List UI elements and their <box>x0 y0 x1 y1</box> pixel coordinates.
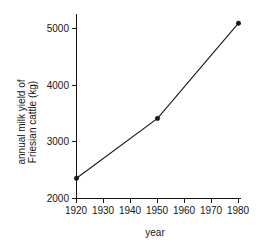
y-tick-label-5000: 5000 <box>47 23 70 34</box>
y-axis-title-line-1: annual milk yield of <box>16 79 27 164</box>
y-tick-label-2000: 2000 <box>47 193 70 204</box>
chart-figure: 5000 4000 3000 2000 1920 1930 1940 1950 … <box>0 0 261 248</box>
x-tick-label-1930: 1930 <box>92 205 115 216</box>
y-tick-label-4000: 4000 <box>47 80 70 91</box>
data-point-1920 <box>74 176 78 180</box>
series-line-milk-yield <box>77 23 239 178</box>
y-tick-label-3000: 3000 <box>47 136 70 147</box>
x-axis-ticks <box>77 199 239 204</box>
data-point-1980 <box>236 21 240 25</box>
series-markers <box>74 21 240 180</box>
x-tick-label-1950: 1950 <box>146 205 169 216</box>
x-tick-label-1980: 1980 <box>227 205 250 216</box>
x-tick-label-1940: 1940 <box>119 205 142 216</box>
y-axis-tick-labels: 5000 4000 3000 2000 <box>47 23 70 204</box>
y-axis-title-line-2: Friesian cattle (kg) <box>27 81 38 163</box>
x-tick-label-1920: 1920 <box>65 205 88 216</box>
x-axis-title: year <box>145 227 165 238</box>
x-axis-tick-labels: 1920 1930 1940 1950 1960 1970 1980 <box>65 205 250 216</box>
x-tick-label-1970: 1970 <box>200 205 223 216</box>
x-tick-label-1960: 1960 <box>173 205 196 216</box>
y-axis-ticks <box>72 29 76 199</box>
line-chart-canvas: 5000 4000 3000 2000 1920 1930 1940 1950 … <box>0 0 261 248</box>
data-point-1950 <box>155 116 159 120</box>
